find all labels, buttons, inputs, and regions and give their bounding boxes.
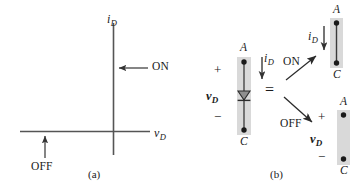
panel-a-caption: (a) [88, 169, 100, 180]
panel-b-on-equivalent [324, 18, 343, 68]
off-cathode-node [341, 156, 346, 161]
panel-b-on-label: ON [283, 56, 300, 68]
device-current-label: iD [264, 49, 273, 65]
device-voltage-label: vD [206, 87, 218, 103]
device-plus-sign: + [214, 63, 221, 76]
device-cathode-node [241, 127, 246, 132]
off-anode-node [341, 112, 346, 117]
on-cathode-label: C [333, 69, 341, 81]
device-cathode-label: C [240, 136, 248, 148]
panel-a-axes [20, 23, 150, 155]
panel-b-off-equivalent [337, 110, 350, 165]
on-anode-label: A [333, 4, 340, 16]
off-plus-sign: + [318, 110, 325, 123]
panel-b-caption: (b) [270, 169, 283, 180]
off-minus-sign: − [318, 150, 325, 163]
x-axis-label: vD [154, 124, 165, 140]
diode-ideal-characteristic-figure: iD vD ON OFF (a) A C + vD − iD = ON OFF … [0, 0, 363, 195]
panel-a-off-label: OFF [31, 161, 53, 173]
y-axis-label: iD [107, 10, 116, 26]
off-anode-label: A [340, 96, 347, 108]
off-cathode-label: C [340, 165, 348, 177]
device-anode-node [241, 59, 246, 64]
device-anode-label: A [240, 42, 247, 54]
on-cathode-node [334, 60, 339, 65]
equals-sign: = [265, 82, 274, 98]
device-minus-sign: − [214, 110, 221, 123]
panel-a-on-label: ON [152, 61, 169, 73]
panel-b-device [237, 57, 251, 135]
off-voltage-label: vD [310, 130, 322, 146]
on-anode-node [334, 20, 339, 25]
on-current-label: iD [308, 27, 317, 43]
panel-b-off-label: OFF [280, 118, 302, 130]
